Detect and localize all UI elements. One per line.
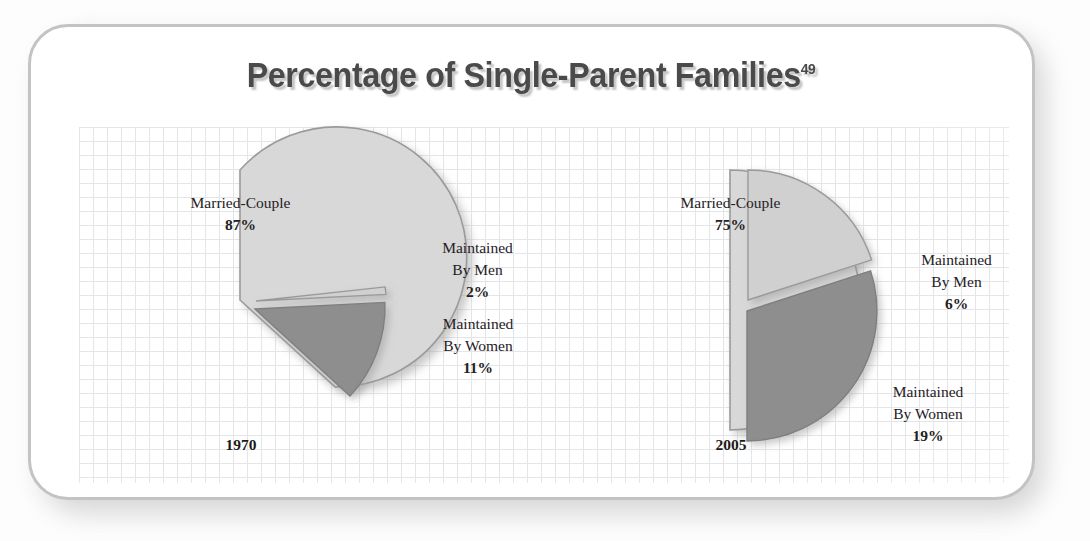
year-label-1970: 1970 (186, 436, 296, 454)
label-men-1970-line1: Maintained (410, 237, 545, 259)
charts-layer: Married-Couple 87% Maintained By Men 2% … (0, 0, 1090, 541)
label-married-couple-2005: Married-Couple 75% (648, 192, 813, 236)
label-women-2005-line1: Maintained (858, 381, 998, 403)
year-label-2005: 2005 (676, 436, 786, 454)
figure-page: Percentage of Single-Parent Families49 (0, 0, 1090, 541)
label-married-couple-1970-name: Married-Couple (158, 192, 323, 214)
label-women-1970-line1: Maintained (408, 313, 548, 335)
label-men-2005-line1: Maintained (889, 249, 1024, 271)
label-married-couple-1970: Married-Couple 87% (158, 192, 323, 236)
label-married-couple-1970-pct: 87% (158, 214, 323, 236)
label-women-2005: Maintained By Women 19% (858, 381, 998, 447)
label-women-2005-line2: By Women (858, 403, 998, 425)
label-men-2005-line2: By Men (889, 271, 1024, 293)
label-women-2005-pct: 19% (858, 425, 998, 447)
label-women-1970-pct: 11% (408, 357, 548, 379)
label-men-1970-line2: By Men (410, 259, 545, 281)
label-men-1970-pct: 2% (410, 281, 545, 303)
label-men-2005-pct: 6% (889, 293, 1024, 315)
label-women-1970: Maintained By Women 11% (408, 313, 548, 379)
label-married-couple-2005-pct: 75% (648, 214, 813, 236)
label-men-2005: Maintained By Men 6% (889, 249, 1024, 315)
label-women-1970-line2: By Women (408, 335, 548, 357)
label-men-1970: Maintained By Men 2% (410, 237, 545, 303)
label-married-couple-2005-name: Married-Couple (648, 192, 813, 214)
